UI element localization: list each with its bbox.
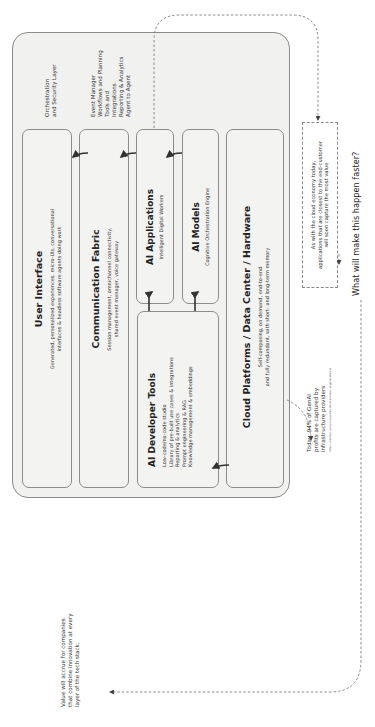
cloud-economy-line: will soon capture the most value: [323, 141, 330, 269]
event-manager-label-line: Agent to Agent: [125, 27, 132, 117]
ai-applications-desc: Intelligent Digital Workers: [158, 188, 165, 264]
ai-applications-title: AI Applications: [145, 188, 156, 264]
layer-cloud-platforms: Cloud Platforms / Data Center / Hardware…: [226, 129, 284, 488]
layer-ai-models: AI Models Cognitive Orchestration Engine: [182, 129, 219, 304]
event-manager-label-line: Integrations: [111, 27, 118, 117]
communication-fabric-title: Communication Fabric: [90, 227, 102, 350]
user-interface-desc: Generated, personalized experiences, mic…: [49, 208, 56, 368]
cloud-platforms-text: Cloud Platforms / Data Center / Hardware…: [241, 205, 270, 427]
orchestration-label: Orchestration and Security Layer: [44, 37, 58, 117]
ai-applications-text: AI Applications Intelligent Digital Work…: [145, 188, 165, 264]
communication-fabric-desc: shared event manager, voice gateway: [112, 227, 119, 350]
cloud-economy-callout: As with the cloud economy today, applica…: [302, 122, 338, 288]
ai-developer-tools-title: AI Developer Tools: [147, 357, 158, 467]
layer-ai-applications: AI Applications Intelligent Digital Work…: [136, 129, 174, 304]
value-accrual-line: Value will accrue for companies: [60, 614, 67, 707]
user-interface-desc: interfaces & headless software agents do…: [55, 208, 62, 368]
orchestration-label-line: and Security Layer: [51, 37, 58, 117]
ai-models-title: AI Models: [191, 187, 202, 265]
communication-fabric-desc: Session management, omnichannel connecti…: [106, 227, 113, 350]
layer-communication-fabric: Communication Fabric Session management,…: [79, 129, 129, 488]
cloud-economy-line: As with the cloud economy today,: [310, 141, 317, 269]
ai-models-text: AI Models Cognitive Orchestration Engine: [191, 187, 211, 265]
event-manager-label-line: Tools and: [104, 27, 111, 117]
event-manager-label: Event Manager Workflows and Planning Too…: [90, 27, 132, 117]
ai-models-desc: Cognitive Orchestration Engine: [204, 187, 211, 265]
value-accrual-line: that combine innovation at every: [67, 614, 74, 707]
value-accrual-line: layer of the tech stack.: [74, 614, 81, 707]
orchestration-label-line: Orchestration: [44, 37, 51, 117]
genai-profits-note: Today, 94% of GenAI profits are captured…: [306, 368, 333, 452]
question-text: What will make this happen faster?: [351, 152, 361, 296]
layer-ai-developer-tools: AI Developer Tools Low-code/no-code stud…: [137, 311, 219, 488]
event-manager-label-line: Event Manager: [90, 27, 97, 117]
cloud-economy-text: As with the cloud economy today, applica…: [310, 141, 330, 269]
genai-profits-line: infrastructure providers: [320, 368, 327, 452]
event-manager-label-line: Reporting & Analytics: [118, 27, 125, 117]
value-accrual-note: Value will accrue for companies that com…: [60, 614, 81, 707]
cloud-economy-line: applications that are closest to the end…: [317, 141, 324, 269]
genai-profits-line: Today, 94% of GenAI: [306, 368, 313, 452]
event-manager-label-line: Workflows and Planning: [97, 27, 104, 117]
layer-user-interface: User Interface Generated, personalized e…: [22, 129, 72, 488]
genai-profits-line: profits are captured by: [313, 368, 320, 452]
ai-developer-tools-text: AI Developer Tools Low-code/no-code stud…: [147, 357, 194, 467]
cloud-platforms-title: Cloud Platforms / Data Center / Hardware: [241, 205, 253, 427]
cloud-platforms-desc: and fully redundant, with short- and lon…: [263, 205, 270, 427]
source-url: https://menlovc.com/perspective/the-econ…: [329, 368, 333, 452]
user-interface-title: User Interface: [33, 208, 45, 368]
dev-tools-item: Knowledge management & embeddings: [187, 357, 194, 467]
user-interface-text: User Interface Generated, personalized e…: [33, 208, 62, 368]
communication-fabric-text: Communication Fabric Session management,…: [90, 227, 119, 350]
